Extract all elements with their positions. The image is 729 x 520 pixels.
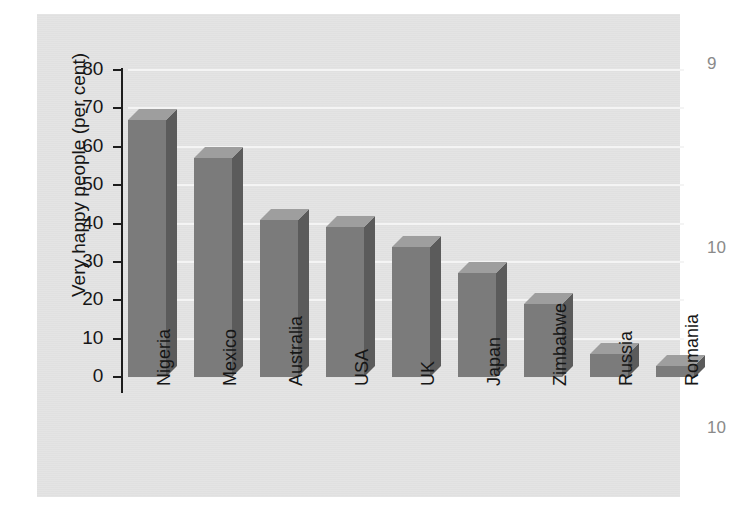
x-axis-label: Romania bbox=[682, 314, 703, 386]
x-axis-label: UK bbox=[418, 361, 439, 386]
x-axis-label: Nigeria bbox=[154, 329, 175, 386]
y-axis-tick-label: 40 bbox=[55, 212, 103, 234]
y-axis-tick-label: 70 bbox=[55, 96, 103, 118]
y-axis-tick bbox=[113, 146, 123, 148]
y-axis-tick bbox=[113, 261, 123, 263]
bar-front-face bbox=[392, 247, 430, 377]
y-axis-tick-label: 80 bbox=[55, 58, 103, 80]
y-axis-line bbox=[121, 68, 123, 393]
y-axis-tick bbox=[113, 299, 123, 301]
plot-area bbox=[128, 70, 684, 377]
x-axis-label: Mexico bbox=[220, 329, 241, 386]
page-number: 9 bbox=[707, 54, 716, 74]
x-axis-label: Japan bbox=[484, 337, 505, 386]
y-axis-tick bbox=[113, 376, 123, 378]
y-axis-tick bbox=[113, 184, 123, 186]
bar-side-face bbox=[430, 236, 441, 377]
gridline bbox=[128, 107, 684, 109]
y-axis-tick bbox=[113, 338, 123, 340]
page-number: 10 bbox=[707, 238, 726, 258]
y-axis-tick-label: 0 bbox=[55, 365, 103, 387]
y-axis-tick-label: 10 bbox=[55, 327, 103, 349]
page-number: 10 bbox=[707, 418, 726, 438]
bar bbox=[392, 236, 441, 377]
y-axis-tick bbox=[113, 69, 123, 71]
x-axis-label: Australia bbox=[286, 316, 307, 386]
x-axis-label: Russia bbox=[616, 331, 637, 386]
y-axis-tick-label: 20 bbox=[55, 288, 103, 310]
y-axis-tick bbox=[113, 107, 123, 109]
y-axis-tick-label: 50 bbox=[55, 173, 103, 195]
y-axis-tick-label: 60 bbox=[55, 135, 103, 157]
chart-panel: Very happy people (per cent) 80706050403… bbox=[37, 14, 680, 497]
y-axis-tick bbox=[113, 223, 123, 225]
y-axis-tick-label: 30 bbox=[55, 250, 103, 272]
gridline bbox=[128, 69, 684, 71]
x-axis-label: USA bbox=[352, 349, 373, 386]
x-axis-label: Zimbabwe bbox=[550, 303, 571, 386]
